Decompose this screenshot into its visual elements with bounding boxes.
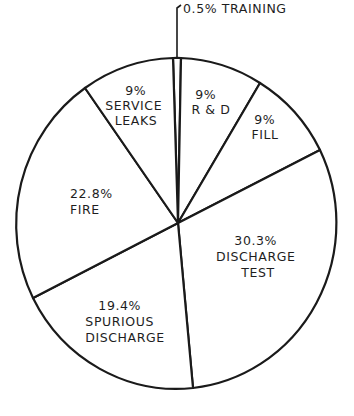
label-discharge-test-line2: TEST — [240, 265, 275, 280]
label-r-and-d-name: R & D — [191, 102, 230, 117]
label-training: 0.5% TRAINING — [183, 1, 287, 16]
pie-slices — [16, 58, 336, 389]
label-fill: 9% FILL — [251, 112, 279, 142]
label-service-leaks-line2: LEAKS — [115, 113, 158, 128]
label-fire-pct: 22.8% — [70, 186, 113, 201]
label-fire-name: FIRE — [70, 202, 100, 217]
label-service-leaks-pct: 9% — [125, 83, 146, 98]
pie-chart: 0.5% TRAINING 9% R & D 9% FILL 30.3% DIS… — [0, 0, 354, 416]
label-spurious-line1: SPURIOUS — [85, 314, 154, 329]
label-service-leaks-line1: SERVICE — [105, 98, 162, 113]
label-spurious-pct: 19.4% — [98, 298, 141, 313]
label-discharge-test-pct: 30.3% — [234, 233, 277, 248]
label-discharge-test-line1: DISCHARGE — [216, 249, 296, 264]
label-spurious-line2: DISCHARGE — [85, 330, 165, 345]
label-r-and-d-pct: 9% — [195, 87, 216, 102]
training-leader-line — [177, 5, 181, 58]
label-fill-name: FILL — [251, 127, 278, 142]
label-fill-pct: 9% — [254, 112, 275, 127]
